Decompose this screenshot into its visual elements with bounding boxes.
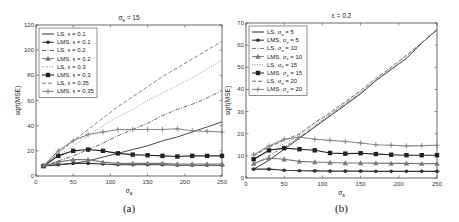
square-marker [101,149,105,153]
y-tick-label: 120 [24,22,35,28]
x-axis-label: σa [338,189,345,198]
legend-entry: LS, ε = 0.3 [57,64,86,70]
y-tick-label: 20 [237,131,244,137]
x-tick-label: 250 [432,181,443,187]
x-tick-label: 150 [143,179,154,185]
square-marker [205,154,209,158]
square-marker [435,153,439,157]
square-marker [282,146,286,150]
square-marker [160,154,164,158]
y-tick-label: 40 [237,86,244,92]
panel-caption: (b) [335,202,348,215]
chart-title: σe = 15 [118,14,140,23]
square-marker [313,148,317,152]
legend-entry: LS, ε = 0.1 [57,31,86,37]
square-marker [256,71,260,75]
y-tick-label: 80 [27,72,34,78]
legend: LS, ε = 0.1LMS, ε = 0.1LS, ε = 0.2LMS, ε… [39,28,97,98]
legend-entry: LS, ε = 0.35 [57,80,90,86]
x-tick-label: 50 [70,179,77,185]
y-tick-label: 30 [237,109,244,115]
y-tick-label: 100 [24,47,35,53]
square-marker [145,153,149,157]
x-tick-label: 200 [180,179,191,185]
x-tick-label: 0 [244,181,248,187]
square-marker [374,152,378,156]
x-axis-label: σa [126,187,133,196]
legend-entry: LMS, ε = 0.2 [57,56,91,62]
y-tick-label: 70 [237,20,244,26]
y-axis-label: sqrt(MSE) [14,86,22,115]
square-marker [343,151,347,155]
y-tick-label: 60 [237,42,244,48]
square-marker [46,73,50,77]
x-tick-label: 100 [105,179,116,185]
y-tick-label: 60 [27,98,34,104]
y-tick-label: 50 [237,64,244,70]
legend-entry: LMS, ε = 0.1 [57,39,91,45]
square-marker [358,151,362,155]
legend-entry: LMS, ε = 0.35 [57,88,95,94]
square-marker [420,153,424,157]
square-marker [131,152,135,156]
chart-title: ε = 0.2 [332,12,352,19]
square-marker [267,148,271,152]
legend-entry: LMS, ε = 0.3 [57,72,91,78]
square-marker [190,154,194,158]
square-marker [297,147,301,151]
square-marker [56,154,60,158]
x-tick-label: 150 [356,181,367,187]
x-tick-label: 250 [217,179,228,185]
legend: LS, σe = 5LMS, σe = 5LS, σe = 10LMS, σe … [249,26,307,96]
square-marker [71,149,75,153]
y-tick-label: 20 [27,148,34,154]
x-tick-label: 100 [317,181,328,187]
figure: 050100150200250020406080100120LS, ε = 0.… [0,0,459,222]
panel-b-chart: 050100150200250010203040506070LS, σe = 5… [224,12,443,215]
panel-caption: (a) [123,202,136,215]
x-tick-label: 50 [281,181,288,187]
panel-a-chart: 050100150200250020406080100120LS, ε = 0.… [14,14,228,215]
legend-entry: LS, ε = 0.2 [57,47,86,53]
square-marker [175,154,179,158]
y-tick-label: 10 [237,153,244,159]
square-marker [86,147,90,151]
square-marker [328,151,332,155]
x-tick-label: 0 [34,179,38,185]
y-axis-label: sqrt(MSE) [224,86,232,115]
square-marker [116,151,120,155]
square-marker [220,154,224,158]
square-marker [251,157,255,161]
x-tick-label: 200 [394,181,405,187]
square-marker [404,153,408,157]
square-marker [389,153,393,157]
y-tick-label: 40 [27,123,34,129]
